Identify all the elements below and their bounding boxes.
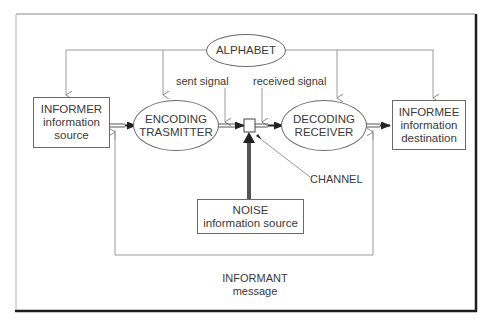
informant-label: INFORMANT xyxy=(220,272,290,285)
node-informee: INFORMEE information destination xyxy=(392,100,466,150)
node-noise: NOISE information source xyxy=(197,199,304,234)
informer-line2: information xyxy=(43,116,100,129)
informer-title: INFORMER xyxy=(41,103,102,116)
informee-line2: information xyxy=(401,119,458,132)
noise-line2: information source xyxy=(203,217,298,230)
channel-label: CHANNEL xyxy=(310,173,363,186)
channel-square xyxy=(244,119,255,132)
node-informer: INFORMER information source xyxy=(33,97,110,148)
message-label: message xyxy=(220,285,290,298)
sent-signal-label: sent signal xyxy=(176,75,229,88)
alphabet-label: ALPHABET xyxy=(216,44,276,57)
communication-diagram: ALPHABET INFORMER information source ENC… xyxy=(0,0,492,326)
noise-arrow xyxy=(243,132,255,200)
noise-title: NOISE xyxy=(233,204,269,217)
encoding-line2: TRASMITTER xyxy=(139,126,212,139)
decoding-title: DECODING xyxy=(293,113,355,126)
node-alphabet: ALPHABET xyxy=(206,34,286,67)
informee-title: INFORMEE xyxy=(399,106,460,119)
received-signal-label: received signal xyxy=(253,75,326,88)
informee-line3: destination xyxy=(401,132,457,145)
node-encoding-transmitter: ENCODING TRASMITTER xyxy=(133,100,219,151)
channel-pointer-head xyxy=(256,134,262,140)
informer-line3: source xyxy=(54,129,89,142)
node-decoding-receiver: DECODING RECEIVER xyxy=(281,100,367,151)
encoding-title: ENCODING xyxy=(145,113,207,126)
decoding-line2: RECEIVER xyxy=(295,126,354,139)
